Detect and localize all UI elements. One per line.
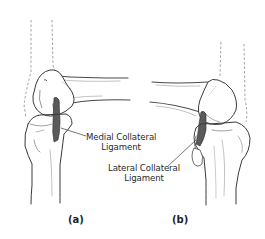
panel-a-mcl-band (53, 97, 60, 142)
lcl-label-line1: Lateral Collateral (104, 163, 184, 173)
medial-collateral-ligament-label: Medial Collateral Ligament (86, 132, 156, 152)
panel-a-leader-line (61, 128, 86, 136)
lcl-label-line2: Ligament (104, 173, 184, 183)
panel-b-tag: (b) (172, 214, 188, 225)
panel-b-lcl-band (196, 111, 206, 146)
lateral-collateral-ligament-label: Lateral Collateral Ligament (104, 163, 184, 183)
knee-illustrations (0, 0, 265, 239)
mcl-label-line1: Medial Collateral (86, 132, 156, 142)
panel-a-tibia (25, 114, 72, 204)
panel-b-fibula-head (192, 148, 203, 166)
knee-ligament-figure: Medial Collateral Ligament Lateral Colla… (0, 0, 265, 239)
panel-a-tag: (a) (68, 214, 84, 225)
mcl-label-line2: Ligament (86, 142, 156, 152)
